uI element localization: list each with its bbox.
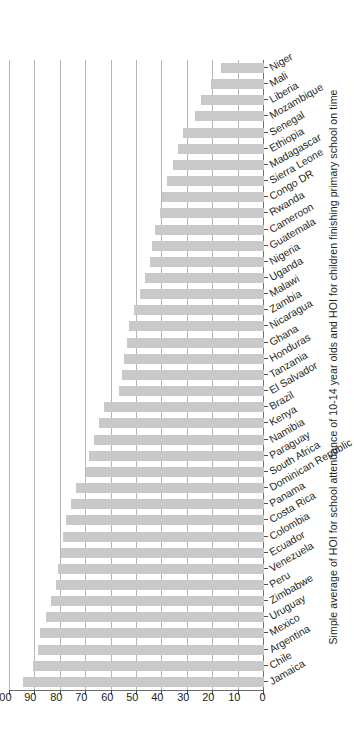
category-tick [264, 616, 268, 617]
bar-slot [10, 286, 264, 302]
value-axis-title: Simple average of HOI for school attenda… [327, 0, 339, 734]
category-tick [264, 212, 268, 213]
bar [46, 612, 264, 622]
bar [89, 451, 264, 461]
bar [94, 435, 264, 445]
category-tick [264, 422, 268, 423]
bar-slot [10, 205, 264, 221]
bar-slot [10, 577, 264, 593]
bar-slot [10, 254, 264, 270]
category-tick [264, 293, 268, 294]
bar-slot [10, 658, 264, 674]
bar-slot [10, 351, 264, 367]
bar [129, 321, 264, 331]
bar [71, 499, 264, 509]
bar-slot [10, 383, 264, 399]
bar [86, 467, 264, 477]
category-label: Niger [267, 51, 294, 73]
bar-slot [10, 496, 264, 512]
category-tick [264, 568, 268, 569]
bar [167, 176, 264, 186]
category-tick [264, 115, 268, 116]
value-tick-label: 80 [57, 698, 68, 710]
bar-slot [10, 60, 264, 76]
bar [23, 677, 264, 687]
value-axis: 1009080706050403020100 [10, 690, 264, 734]
value-tick-label: 90 [31, 698, 42, 710]
category-tick [264, 584, 268, 585]
bar-slot [10, 642, 264, 658]
category-tick [264, 600, 268, 601]
category-tick [264, 99, 268, 100]
bar-slot [10, 125, 264, 141]
category-tick [264, 261, 268, 262]
bar [150, 257, 264, 267]
category-tick [264, 439, 268, 440]
category-tick [264, 536, 268, 537]
bar [160, 208, 264, 218]
category-tick [264, 681, 268, 682]
bar [51, 596, 264, 606]
bar-slot [10, 173, 264, 189]
value-tick-label: 100 [6, 698, 17, 716]
category-tick [264, 649, 268, 650]
bar-slot [10, 189, 264, 205]
bar [127, 338, 264, 348]
category-tick [264, 632, 268, 633]
bar [140, 289, 264, 299]
bar [119, 386, 264, 396]
bar-slot [10, 512, 264, 528]
bar [33, 661, 264, 671]
bar-slot [10, 432, 264, 448]
category-tick [264, 132, 268, 133]
category-tick [264, 342, 268, 343]
category-tick [264, 471, 268, 472]
category-tick [264, 309, 268, 310]
value-tick-label: 70 [82, 698, 93, 710]
bar [155, 225, 264, 235]
bar [178, 144, 264, 154]
category-tick [264, 487, 268, 488]
bar-slot [10, 480, 264, 496]
bar [104, 402, 264, 412]
bar-slot [10, 318, 264, 334]
category-tick [264, 325, 268, 326]
category-tick [264, 245, 268, 246]
bar [61, 548, 264, 558]
value-tick-label: 60 [108, 698, 119, 710]
bar-slot [10, 593, 264, 609]
category-tick [264, 665, 268, 666]
category-tick [264, 164, 268, 165]
category-tick [264, 67, 268, 68]
category-tick [264, 180, 268, 181]
bar-slot [10, 157, 264, 173]
bar [63, 532, 264, 542]
bar-slot [10, 238, 264, 254]
bar-slot [10, 415, 264, 431]
category-tick [264, 229, 268, 230]
bar [56, 580, 264, 590]
bar-slot [10, 302, 264, 318]
bar [173, 160, 264, 170]
value-tick-label: 30 [184, 698, 195, 710]
bar [58, 564, 264, 574]
category-tick [264, 503, 268, 504]
bar-slot [10, 367, 264, 383]
bar-slot [10, 270, 264, 286]
value-tick-label: 20 [209, 698, 220, 710]
bar-slot [10, 545, 264, 561]
value-tick-label: 50 [133, 698, 144, 710]
bar [162, 192, 264, 202]
category-tick [264, 406, 268, 407]
bar [145, 273, 264, 283]
bar-series [10, 60, 264, 690]
category-tick [264, 552, 268, 553]
category-tick [264, 83, 268, 84]
bar-slot [10, 141, 264, 157]
category-tick [264, 148, 268, 149]
bar-slot [10, 464, 264, 480]
bar-slot [10, 108, 264, 124]
plot-area [10, 60, 264, 690]
